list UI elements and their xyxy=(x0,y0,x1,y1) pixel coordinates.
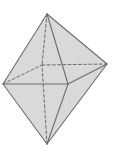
octahedron-faces xyxy=(3,14,107,144)
octahedron-face-fill xyxy=(3,14,107,144)
octahedron-diagram xyxy=(0,0,117,155)
